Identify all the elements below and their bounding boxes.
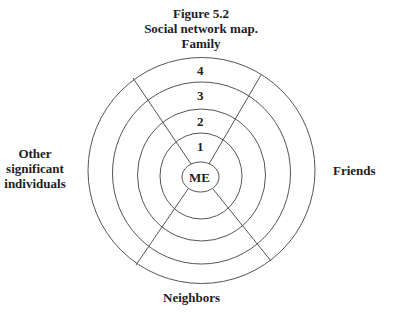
ring-label-3: 3 bbox=[197, 88, 204, 103]
ring-label-1: 1 bbox=[197, 139, 204, 154]
ring-label-4: 4 bbox=[197, 63, 204, 78]
social-network-diagram bbox=[0, 0, 396, 318]
divider-lower-right bbox=[213, 189, 271, 261]
ring-label-2: 2 bbox=[197, 114, 204, 129]
divider-lower-left bbox=[136, 189, 188, 265]
center-label-me: ME bbox=[189, 170, 210, 185]
